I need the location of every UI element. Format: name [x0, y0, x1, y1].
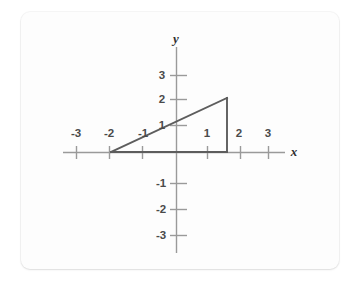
- y-tick-labels: 3 2 1 -1 -2 -3: [156, 69, 167, 241]
- y-axis-ticks: [170, 76, 187, 236]
- x-tick-label-1: 1: [204, 127, 211, 139]
- x-tick-label-3: 3: [265, 127, 271, 139]
- y-tick-label-1: 1: [159, 119, 166, 131]
- x-tick-label--3: -3: [71, 127, 81, 139]
- x-tick-labels: -3 -2 -1 1 2 3: [71, 127, 271, 139]
- y-axis-label: y: [171, 31, 179, 46]
- x-tick-label-2: 2: [236, 127, 242, 139]
- coordinate-plane: -3 -2 -1 1 2 3 3 2 1 -1 -2 -3 y x: [0, 0, 360, 287]
- y-tick-label-3: 3: [159, 69, 165, 81]
- axes-group: [63, 47, 285, 253]
- y-tick-label--2: -2: [156, 203, 166, 215]
- triangle-edge-hypotenuse: [111, 98, 227, 152]
- y-tick-label--3: -3: [156, 229, 166, 241]
- x-axis-label: x: [290, 144, 298, 159]
- x-tick-label--1: -1: [138, 127, 149, 139]
- triangle-shape: [111, 98, 227, 152]
- x-tick-label--2: -2: [104, 127, 114, 139]
- y-tick-label-2: 2: [159, 93, 165, 105]
- y-tick-label--1: -1: [156, 177, 167, 189]
- figure-stage: -3 -2 -1 1 2 3 3 2 1 -1 -2 -3 y x: [0, 0, 360, 287]
